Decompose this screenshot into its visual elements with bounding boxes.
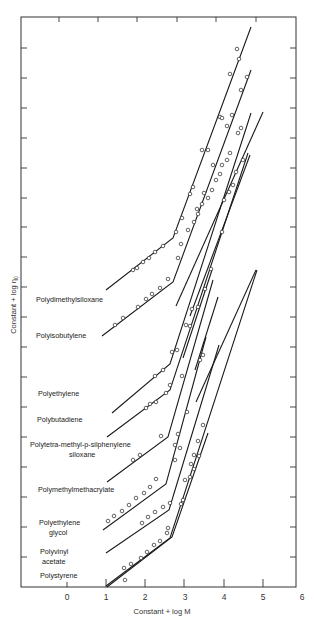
svg-text:4: 4 <box>222 592 227 602</box>
curve-polymethylmethacrylate <box>103 337 206 530</box>
label-polyvinyl-acetate-line1: Polyvinyl <box>40 547 69 556</box>
curve-extra-2 <box>190 155 250 316</box>
svg-text:0: 0 <box>65 592 70 602</box>
svg-text:6: 6 <box>300 592 305 602</box>
label-polytetramethyl-silphenylene-line2: siloxane <box>69 450 95 459</box>
x-tick-labels: 0 1 2 3 4 5 6 <box>65 592 305 602</box>
label-polyethylene-glycol-line2: glycol <box>49 528 68 537</box>
curve-extra-3 <box>183 270 212 358</box>
x-axis-label: Constant + log M <box>134 607 191 616</box>
label-polybutadiene: Polybutadiene <box>37 415 83 424</box>
label-polydimethylsiloxane: Polydimethylsiloxane <box>36 295 103 304</box>
data-markers <box>106 47 249 582</box>
curve-polydimethylsiloxane <box>106 27 251 290</box>
label-polyethylene-glycol-line1: Polyethylene <box>39 518 80 527</box>
svg-text:3: 3 <box>183 592 188 602</box>
label-polymethylmethacrylate: Polymethylmethacrylate <box>38 485 114 494</box>
right-ticks <box>290 48 296 557</box>
label-polyisobutylene: Polyisobutylene <box>36 331 86 340</box>
viscosity-molecular-weight-chart: 0 1 2 3 4 5 6 Constant + log M Constant … <box>0 0 314 621</box>
curve-polybutadiene <box>107 153 248 437</box>
bottom-ticks <box>67 579 263 587</box>
svg-text:5: 5 <box>261 592 266 602</box>
left-ticks <box>21 48 27 557</box>
label-polytetramethyl-silphenylene-line1: Polytetra-methyl-p-silphenylene <box>30 440 131 449</box>
curve-polyethylene <box>112 113 251 413</box>
label-polyvinyl-acetate-line2: acetate <box>42 557 66 566</box>
curve-labels: Polydimethylsiloxane Polyisobutylene Pol… <box>30 295 131 580</box>
label-polystyrene: Polystyrene <box>40 571 78 580</box>
label-polyethylene: Polyethylene <box>38 389 79 398</box>
curve-polytetramethyl-silphenylene-siloxane <box>107 280 213 482</box>
svg-text:Constant + log η0: Constant + log η0 <box>9 276 19 334</box>
top-ticks <box>59 17 256 22</box>
y-axis-label: Constant + log η0 <box>9 276 19 334</box>
curve-polyisobutylene <box>102 70 251 336</box>
curve-extra-1 <box>176 112 263 306</box>
svg-text:2: 2 <box>143 592 148 602</box>
svg-text:1: 1 <box>104 592 109 602</box>
